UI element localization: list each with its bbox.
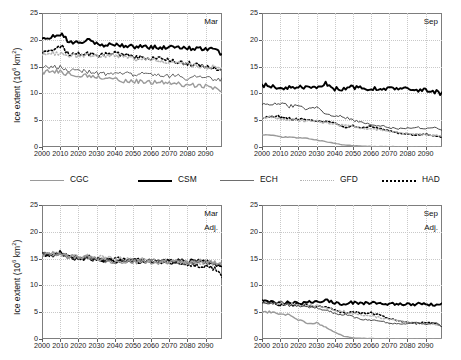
series-layer xyxy=(0,0,461,360)
figure-root: 0510152025200020102020203020402050206020… xyxy=(0,0,461,360)
series-line-cgc xyxy=(262,311,442,339)
panel-sep-adj: 0510152025200020102020203020402050206020… xyxy=(0,0,461,360)
